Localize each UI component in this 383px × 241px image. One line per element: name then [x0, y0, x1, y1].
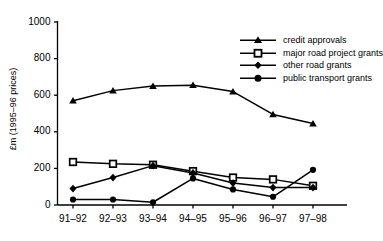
data-point-s1-5 [270, 176, 277, 183]
series-line-0 [73, 85, 313, 123]
x-tick-label-6: 97–98 [291, 213, 335, 224]
data-point-s2-5 [270, 184, 277, 192]
legend: credit approvals major road project gran… [238, 34, 380, 84]
data-point-s2-0 [70, 185, 77, 193]
legend-item-3[interactable]: public transport grants [238, 72, 380, 85]
x-tick-label-2: 93–94 [131, 213, 175, 224]
legend-label-major-road-project-grants: major road project grants [283, 48, 383, 59]
x-tick-label-0: 91–92 [51, 213, 95, 224]
data-point-s2-1 [110, 174, 117, 182]
legend-item-2[interactable]: other road grants [238, 59, 380, 72]
data-point-s3-5 [270, 194, 276, 200]
legend-label-other-road-grants: other road grants [283, 60, 352, 71]
legend-key-triangle-icon [238, 34, 278, 47]
x-tick-label-5: 96–97 [251, 213, 295, 224]
y-tick-label-0: 0 [0, 200, 51, 210]
y-tick-label-5: 1000 [0, 17, 51, 27]
data-point-s3-6 [310, 167, 316, 173]
data-point-s1-1 [110, 161, 117, 168]
data-point-s3-3 [190, 175, 196, 181]
legend-item-0[interactable]: credit approvals [238, 34, 380, 47]
data-point-s1-0 [70, 159, 77, 166]
x-tick-label-4: 95–96 [211, 213, 255, 224]
data-point-s0-5 [269, 111, 277, 118]
data-point-s3-2 [150, 199, 156, 205]
legend-key-open-square-icon [238, 47, 278, 60]
legend-label-credit-approvals: credit approvals [283, 35, 347, 46]
y-tick-label-1: 200 [0, 163, 51, 173]
legend-key-circle-icon [238, 72, 278, 85]
x-tick-label-1: 92–93 [91, 213, 135, 224]
y-tick-label-3: 600 [0, 90, 51, 100]
y-tick-label-2: 400 [0, 126, 51, 136]
data-point-s3-0 [70, 196, 76, 202]
y-tick-label-4: 800 [0, 53, 51, 63]
x-tick-label-3: 94–95 [171, 213, 215, 224]
legend-item-1[interactable]: major road project grants [238, 47, 380, 60]
legend-key-diamond-icon [238, 59, 278, 72]
series-0 [69, 82, 317, 127]
data-point-s3-4 [230, 186, 236, 192]
data-point-s3-1 [110, 196, 116, 202]
legend-label-public-transport-grants: public transport grants [283, 73, 372, 84]
